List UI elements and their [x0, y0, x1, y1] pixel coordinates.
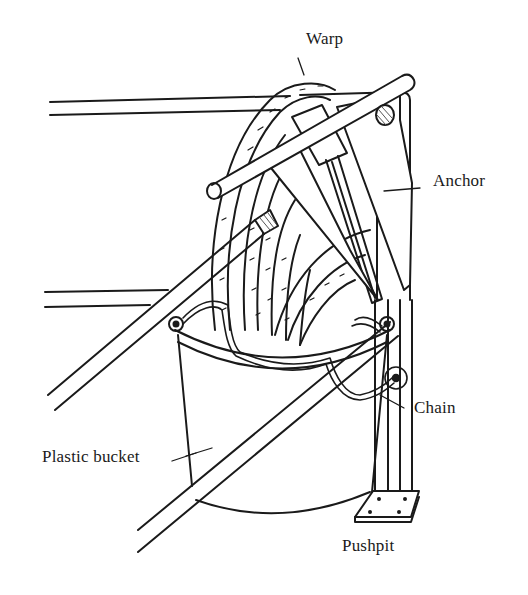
upper-guard-rails: [50, 96, 290, 115]
pushpit-base-plate: [355, 491, 419, 522]
diagram: Warp Anchor Chain Plastic bucket Pushpit: [0, 0, 528, 595]
label-plastic-bucket: Plastic bucket: [42, 448, 140, 465]
label-chain: Chain: [414, 399, 456, 416]
label-warp: Warp: [306, 30, 343, 47]
line-drawing: [0, 0, 528, 595]
label-pushpit: Pushpit: [342, 537, 394, 554]
rail-end-hatch: [376, 105, 394, 125]
label-anchor: Anchor: [433, 172, 485, 189]
chain: [183, 301, 407, 400]
lower-guard-rails: [45, 290, 168, 307]
